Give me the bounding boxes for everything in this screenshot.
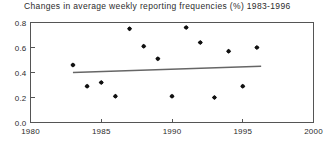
axis-labels-group: 0.00.20.40.60.819801985199019952000: [15, 19, 323, 136]
data-point: [127, 26, 132, 31]
data-point: [155, 56, 160, 61]
x-tick-label: 1985: [92, 127, 111, 136]
data-point: [254, 45, 259, 50]
x-tick-label: 1995: [233, 127, 252, 136]
data-points-group: [70, 25, 259, 100]
chart-figure: Changes in average weekly reporting freq…: [0, 0, 333, 150]
data-point: [169, 94, 174, 99]
data-point: [141, 44, 146, 49]
y-tick-label: 0.2: [15, 94, 27, 103]
data-point: [198, 40, 203, 45]
data-point: [240, 84, 245, 89]
data-point: [184, 25, 189, 30]
y-tick-label: 0.6: [15, 44, 27, 53]
data-point: [70, 62, 75, 67]
y-tick-label: 0.8: [15, 19, 27, 28]
data-point: [226, 49, 231, 54]
x-tick-label: 1990: [163, 127, 182, 136]
data-point: [85, 84, 90, 89]
data-point: [113, 94, 118, 99]
data-point: [99, 80, 104, 85]
x-tick-label: 1980: [21, 127, 40, 136]
trend-line: [73, 66, 261, 72]
x-tick-label: 2000: [304, 127, 323, 136]
trend-line-segment: [73, 66, 261, 72]
scatter-plot: 0.00.20.40.60.819801985199019952000: [0, 0, 333, 150]
y-tick-label: 0.4: [15, 69, 27, 78]
data-point: [212, 95, 217, 100]
